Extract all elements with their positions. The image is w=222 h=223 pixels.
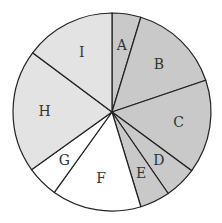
slice-label-h: H	[39, 103, 51, 119]
slice-label-b: B	[154, 56, 164, 72]
pie-chart: ABCDEFGHI	[0, 0, 222, 223]
slice-label-c: C	[173, 114, 184, 130]
slice-label-e: E	[136, 165, 146, 181]
slice-label-i: I	[79, 44, 85, 60]
slice-label-g: G	[59, 152, 70, 168]
slice-label-d: D	[153, 152, 164, 168]
slice-label-f: F	[96, 170, 106, 186]
slice-label-a: A	[116, 37, 128, 53]
